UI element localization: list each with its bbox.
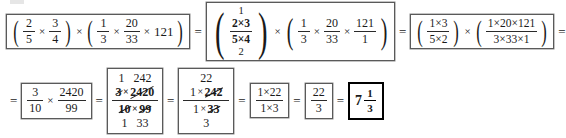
paren-close-icon: )	[541, 19, 547, 44]
denominator-struck: 1 × 33	[193, 102, 220, 116]
paren-close-icon: )	[381, 17, 388, 46]
struck-242: 242	[205, 85, 223, 99]
fractional-part: 1 3	[363, 87, 377, 115]
cancel-annotation-top: 1	[238, 5, 243, 17]
cancel-annotation-bottom-row: 1 33	[121, 116, 148, 130]
times-icon: ×	[341, 26, 353, 37]
struck-99: 99	[139, 102, 151, 116]
paren-close-icon: )	[454, 19, 460, 44]
times-icon: ×	[122, 87, 131, 97]
cancellation-block: 1 242 3 × 2420 10 × 99 1	[112, 71, 158, 131]
step-6-cross-cancellation: 1 242 3 × 2420 10 × 99 1	[107, 68, 163, 134]
math-worksheet: ( 2 5 × 3 4 ) × (	[0, 0, 566, 138]
paren-open-icon: (	[418, 19, 424, 44]
cancel-annotation-bottom: 3	[203, 116, 209, 130]
times-icon: ×	[461, 26, 473, 37]
times-icon: ×	[44, 95, 56, 106]
times-icon: ×	[141, 26, 153, 37]
cancel-top-right: 242	[133, 71, 151, 85]
numerator-struck: 3 × 2420	[116, 85, 155, 99]
cancel-annotation-bottom: 2	[238, 46, 243, 58]
step-5-product-of-fractions: 3 10 × 2420 99	[21, 83, 91, 119]
fraction-2-over-5: 2 5	[22, 17, 36, 47]
cancel-bottom-left: 1	[121, 116, 127, 130]
paren-open-icon: (	[476, 19, 482, 44]
paren-open-icon: (	[88, 19, 94, 44]
fraction-1x22-over-1x3: 1×22 1×3	[255, 86, 285, 115]
equals-icon: =	[92, 94, 107, 107]
fraction-bar	[183, 100, 229, 101]
whole-number-121: 121	[153, 25, 175, 38]
mixed-number-7-and-1-third: 7 1 3	[355, 87, 377, 115]
struck-3: 3	[116, 85, 122, 99]
fraction-2420-over-99: 2420 99	[57, 86, 87, 116]
fraction-22-over-3: 22 3	[310, 86, 328, 116]
numerator-struck: 1 × 242	[190, 85, 223, 99]
fraction: 2×3 5×4	[229, 17, 253, 46]
step-7-second-cancellation: 22 1 × 242 1 × 33 3	[178, 68, 234, 134]
times-icon: ×	[110, 26, 122, 37]
fraction-bar	[364, 100, 376, 101]
step3-group-2: ( 1×20×121 3×33×1 )	[474, 17, 549, 46]
equals-icon: =	[234, 94, 249, 107]
fraction-20-over-33: 20 33	[323, 17, 341, 47]
step2-group-1: ( 1 2×3 5×4 2 )	[211, 5, 272, 58]
paren-open-icon: (	[13, 19, 19, 44]
cancel-bottom-right: 33	[136, 116, 148, 130]
step1-group-1: ( 2 5 × 3 4 )	[11, 17, 73, 47]
equals-icon: =	[289, 94, 304, 107]
paren-close-icon: )	[258, 11, 268, 53]
cancellation-block: 22 1 × 242 1 × 33 3	[183, 71, 229, 131]
step3-group-1: ( 1×3 5×2 )	[415, 17, 461, 46]
times-icon: ×	[311, 26, 323, 37]
step-3-reduced-products: ( 1×3 5×2 ) × ( 1×20×121 3×33×	[410, 14, 554, 49]
times-icon: ×	[271, 26, 283, 37]
step-9-improper-fraction: 22 3	[305, 83, 333, 119]
equation-row-1: ( 2 5 × 3 4 ) × (	[6, 2, 566, 61]
fraction-bar	[486, 31, 537, 32]
fraction-3-over-10: 3 10	[26, 86, 44, 116]
paren-close-icon: )	[178, 19, 184, 44]
paren-close-icon: )	[65, 19, 71, 44]
paren-open-icon: (	[215, 11, 225, 53]
fraction-1x20x121-over-3x33x1: 1×20×121 3×33×1	[485, 17, 538, 46]
whole-part: 7	[355, 94, 363, 108]
fraction-3-over-4: 3 4	[48, 17, 62, 47]
equation-row-2: = 3 10 × 2420 99 = 1 242	[6, 68, 384, 134]
step1-group-2: ( 1 3 × 20 33 × 121 )	[85, 17, 185, 47]
times-icon: ×	[73, 26, 85, 37]
equals-icon: =	[163, 94, 178, 107]
struck-33: 33	[208, 102, 220, 116]
fraction-1x3-over-5x2: 1×3 5×2	[426, 17, 450, 46]
fraction-bar	[427, 31, 449, 32]
step-1-original-expression: ( 2 5 × 3 4 ) × (	[6, 14, 190, 50]
fraction-121-over-1: 121 1	[353, 17, 377, 47]
cancel-top-left: 1	[118, 71, 124, 85]
equals-icon: =	[395, 25, 410, 38]
fraction-1-over-3: 1 3	[96, 17, 110, 47]
times-icon: ×	[36, 26, 48, 37]
denominator-struck: 10 × 99	[119, 102, 152, 116]
equals-icon: =	[6, 94, 21, 107]
times-icon: ×	[199, 104, 208, 114]
paren-open-icon: (	[286, 17, 293, 46]
step-8-reduced-product: 1×22 1×3	[250, 83, 290, 118]
equals-icon: =	[333, 94, 348, 107]
equals-icon: =	[554, 25, 566, 38]
struck-2420: 2420	[130, 85, 154, 99]
cancel-annotation-top-row: 1 242	[118, 71, 151, 85]
fraction-bar	[256, 100, 284, 101]
fraction-bar	[112, 100, 158, 101]
struck-10: 10	[119, 102, 131, 116]
fraction-20-over-33: 20 33	[123, 17, 141, 47]
step-2-with-cancellation: ( 1 2×3 5×4 2 ) × (	[206, 2, 395, 61]
equals-icon: =	[190, 25, 205, 38]
times-icon: ×	[196, 87, 205, 97]
step2-group-2: ( 1 3 × 20 33 × 121	[284, 17, 390, 47]
fraction-1-over-3: 1 3	[297, 17, 311, 47]
fraction-bar	[230, 31, 252, 32]
final-answer-box: 7 1 3	[348, 82, 384, 120]
cancel-annotation-top: 22	[200, 71, 212, 85]
cancelled-fraction-2x3-over-5x4: 1 2×3 5×4 2	[229, 5, 253, 58]
